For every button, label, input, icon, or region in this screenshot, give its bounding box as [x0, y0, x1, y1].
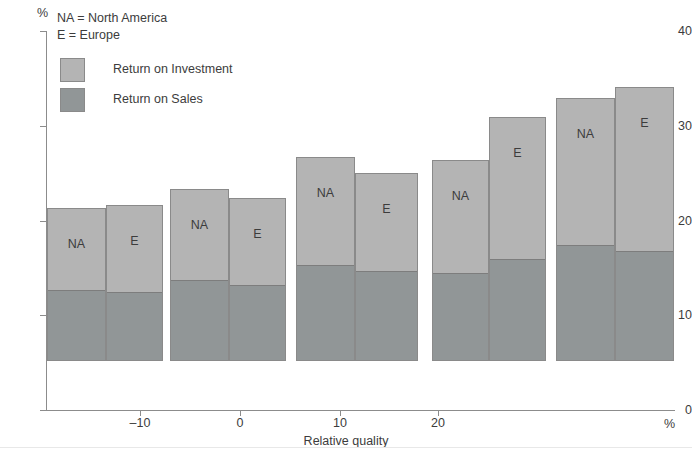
x-axis-unit-label: %	[664, 417, 675, 431]
segment-return-on-sales	[297, 265, 354, 360]
segment-return-on-investment	[490, 118, 545, 261]
bar-group-1-na	[47, 208, 106, 361]
segment-return-on-investment	[171, 190, 228, 283]
bar-label-group-2-na: NA	[170, 219, 229, 232]
chart-container: % % Relative quality 010203040 –1001020 …	[0, 0, 692, 460]
segment-return-on-investment	[616, 88, 673, 253]
segment-return-on-sales	[356, 271, 417, 360]
footer-divider	[0, 447, 692, 448]
bar-label-group-4-e: E	[489, 147, 546, 160]
x-tick-label-0: 0	[220, 417, 260, 430]
segment-return-on-investment	[107, 206, 162, 294]
segment-return-on-sales	[557, 245, 614, 360]
segment-return-on-investment	[433, 161, 488, 275]
bar-label-group-4-na: NA	[432, 190, 489, 203]
x-tick-label--10: –10	[120, 417, 160, 430]
bar-label-group-1-e: E	[106, 235, 163, 248]
bar-group-2-e	[229, 198, 286, 361]
bar-label-group-5-na: NA	[556, 128, 615, 141]
segment-return-on-sales	[171, 280, 228, 360]
bar-group-1-e	[106, 205, 163, 361]
segment-return-on-investment	[356, 174, 417, 273]
bar-label-group-3-e: E	[355, 203, 418, 216]
bar-label-group-1-na: NA	[47, 238, 106, 251]
segment-return-on-sales	[107, 292, 162, 360]
segment-return-on-sales	[48, 290, 105, 360]
plot-area: NAENAENAENAENAE	[0, 0, 692, 411]
segment-return-on-investment	[297, 158, 354, 267]
segment-return-on-sales	[616, 251, 673, 360]
bar-group-2-na	[170, 189, 229, 361]
x-tick-label-10: 10	[320, 417, 360, 430]
x-axis-title: Relative quality	[0, 434, 692, 448]
bar-label-group-5-e: E	[615, 117, 674, 130]
segment-return-on-sales	[490, 259, 545, 360]
segment-return-on-investment	[230, 199, 285, 287]
segment-return-on-sales	[230, 285, 285, 360]
segment-return-on-investment	[557, 99, 614, 248]
bar-label-group-2-e: E	[229, 228, 286, 241]
x-tick-label-20: 20	[418, 417, 458, 430]
bar-label-group-3-na: NA	[296, 187, 355, 200]
segment-return-on-sales	[433, 273, 488, 360]
